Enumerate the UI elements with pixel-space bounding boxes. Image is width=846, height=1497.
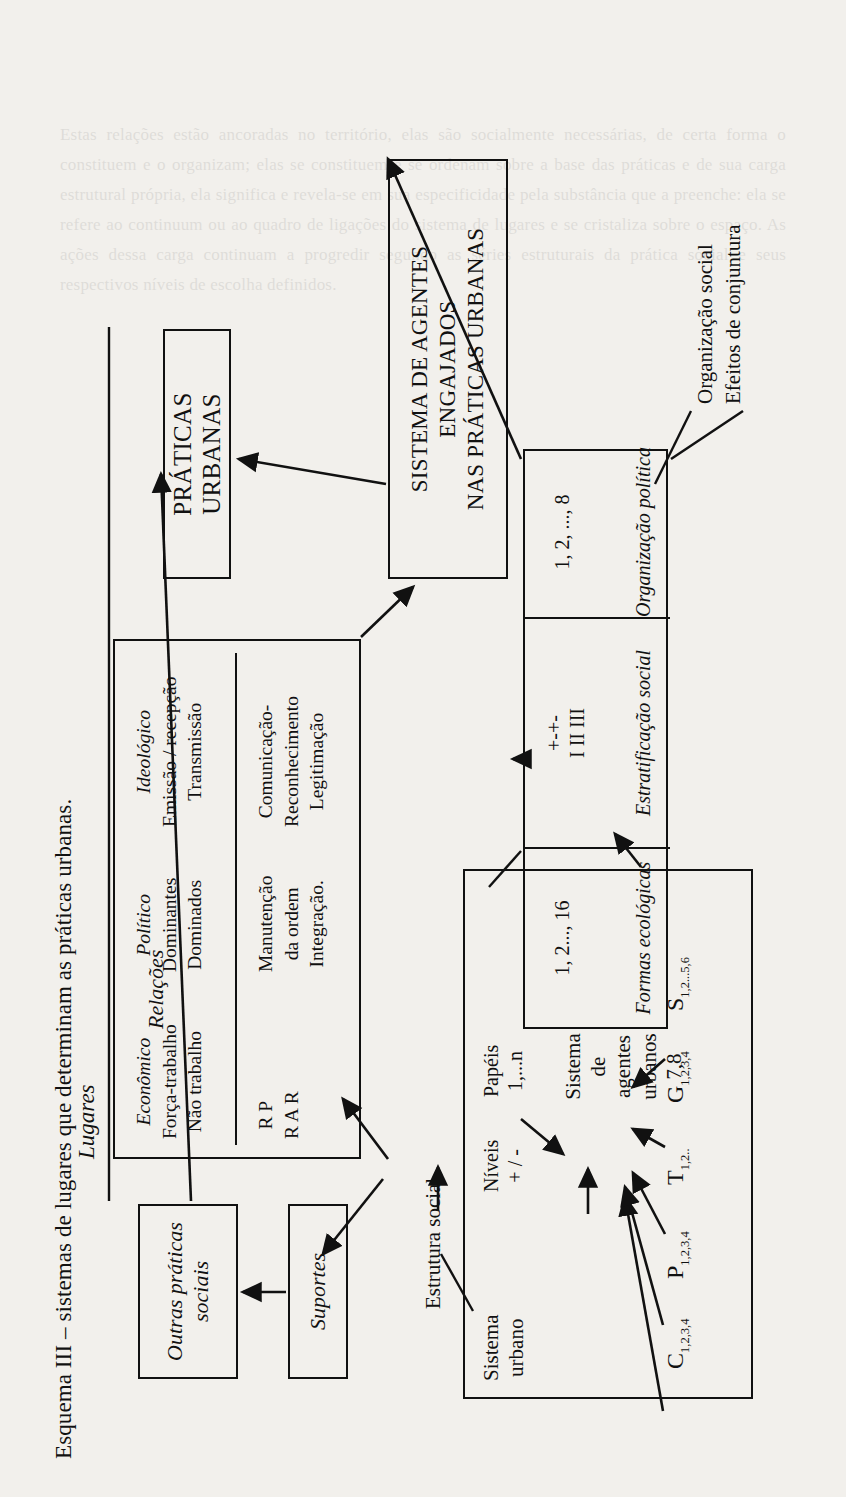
sistema-urbano-title-line2: urbano: [504, 1314, 529, 1381]
es-row2-rar: R A R: [279, 1091, 305, 1139]
es-row2-manutencao: Manutenção: [253, 875, 279, 971]
es-row2-comunicacao: Comunicação-: [253, 695, 279, 826]
cell-estratificacao-social: +-+- I II III Estratificação social: [525, 617, 670, 847]
es-line-dominados: Dominados: [182, 877, 208, 971]
es-line-nao-trabalho: Não trabalho: [182, 1024, 208, 1139]
niveis-value: + / -: [503, 1139, 527, 1191]
label-lugares: Lugares: [73, 1084, 101, 1159]
es-row2-reconhecimento: Reconhecimento: [279, 695, 305, 826]
es-line-transmissao: Transmissão: [182, 676, 208, 827]
es-header-economico: Econômico: [131, 1024, 157, 1139]
es-row2-integracao: Integração.: [304, 875, 330, 971]
sistema-agentes-urbanos-line3: agentes: [611, 974, 636, 1159]
sistema-agentes-urbanos-line2: de: [586, 974, 611, 1159]
estratificacao-social-caption: Estratificação social: [632, 619, 656, 847]
sistema-urbano-title-line1: Sistema: [479, 1314, 504, 1381]
box-outras-praticas-line2: sociais: [188, 1222, 214, 1361]
source-T-sub: 1,2..: [678, 1148, 692, 1170]
source-P-letter: P: [662, 1265, 688, 1278]
es-row2-legitimacao: Legitimação: [304, 695, 330, 826]
sistema-agentes-urbanos-line4: urbanos: [637, 974, 662, 1159]
papeis-value: 1,...n: [503, 1044, 527, 1096]
source-S-sub: 1,2...5,6: [678, 957, 692, 998]
source-S: S1,2...5,6: [661, 957, 693, 1011]
estratificacao-levels: I II III: [566, 619, 589, 847]
source-C-letter: C: [662, 1352, 688, 1368]
source-G-letter: G: [662, 1085, 688, 1102]
arrow-estrutura-to-sistema-agentes: [361, 587, 413, 637]
box-estrutura-social: Econômico Força-trabalho Não trabalho Po…: [113, 639, 361, 1159]
source-C: C1,2,3,4: [661, 1318, 693, 1368]
es-row2-da-ordem: da ordem: [279, 875, 305, 971]
figure-esquema-iii: Esquema III – sistemas de lugares que de…: [43, 39, 803, 1459]
source-G: G1,2,3,4: [661, 1051, 693, 1103]
source-T: T1,2..: [661, 1148, 693, 1185]
box-outras-praticas-line1: Outras práticas: [162, 1222, 188, 1361]
source-P-sub: 1,2,3,4: [678, 1231, 692, 1265]
box-outras-praticas-sociais: Outras práticas sociais: [138, 1204, 238, 1379]
box-praticas-urbanas: PRÁTICAS URBANAS: [163, 329, 231, 579]
organizacao-politica-numbers: 1, 2, ..., 8: [551, 447, 575, 617]
source-S-letter: S: [662, 997, 688, 1010]
source-P: P1,2,3,4: [661, 1231, 693, 1279]
cell-organizacao-politica: 1, 2, ..., 8 Organização política: [525, 447, 670, 617]
box-sistema-urbano: Sistema urbano Níveis + / - Papéis 1,...…: [463, 869, 753, 1399]
source-G-sub: 1,2,3,4: [678, 1051, 692, 1085]
es-line-emissao-recepcao: Emissão / recepção: [157, 676, 183, 827]
sistema-agentes-line3: NAS PRÁTICAS URBANAS: [462, 161, 490, 577]
papeis-label: Papéis: [479, 1044, 503, 1096]
niveis-label: Níveis: [479, 1139, 503, 1191]
es-row2-rp: R P: [253, 1091, 279, 1139]
estratificacao-signs: +-+-: [543, 619, 566, 847]
arrow-sistema-agentes-to-praticas: [239, 459, 386, 484]
organizacao-politica-caption: Organização política: [632, 447, 656, 617]
sistema-agentes-urbanos-line1: Sistema: [561, 974, 586, 1159]
sistema-agentes-line2: ENGAJADOS: [434, 161, 462, 577]
source-T-letter: T: [662, 1170, 688, 1185]
sistema-agentes-line1: SISTEMA DE AGENTES: [406, 161, 434, 577]
box-suportes: Suportes: [288, 1204, 348, 1379]
label-relacoes: Relações: [143, 949, 169, 1028]
estrutura-social-divider: [235, 653, 237, 1145]
box-sistema-de-agentes: SISTEMA DE AGENTES ENGAJADOS NAS PRÁTICA…: [388, 159, 508, 579]
es-header-ideologico: Ideológico: [131, 676, 157, 827]
source-C-sub: 1,2,3,4: [678, 1318, 692, 1352]
es-line-forca-trabalho: Força-trabalho: [157, 1024, 183, 1139]
label-estrutura-social: Estrutura social: [421, 1177, 446, 1308]
label-organizacao-social: Organização social: [693, 244, 718, 404]
leader-efeitos-conjuntura: [671, 411, 743, 459]
label-efeitos-conjuntura: Efeitos de conjuntura: [721, 224, 746, 404]
